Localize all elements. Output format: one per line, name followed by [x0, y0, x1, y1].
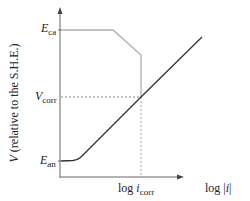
vcorr-label: Vcorr — [35, 90, 57, 106]
evans-diagram: Eca Vcorr Ean V (relative to the S.H.E.)… — [0, 0, 250, 201]
eca-label: Eca — [41, 22, 56, 38]
y-axis-arrow-icon — [58, 7, 63, 14]
anodic-curve — [61, 37, 202, 161]
x-axis-label: log |i| — [205, 182, 232, 194]
y-axis-label: V (relative to the S.H.E.) — [8, 38, 20, 168]
cathodic-curve — [61, 30, 141, 97]
ean-label: Ean — [40, 154, 56, 170]
log-icorr-label: log icorr — [118, 182, 154, 198]
x-axis-arrow-icon — [177, 175, 184, 180]
